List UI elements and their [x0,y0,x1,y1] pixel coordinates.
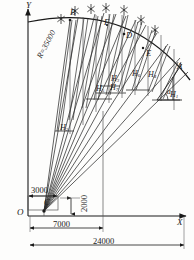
height-sub-h2: 2 [66,127,68,132]
origin-label: O [17,208,24,217]
point-d-label: D [126,31,132,40]
point-c-label: C [44,198,50,207]
height-label-h6: H6 [132,70,140,79]
height-sub-h6: 6 [138,73,140,78]
height-sub-h1: 1 [176,94,178,99]
ray-fan [44,13,188,211]
height-sub-h3: 3 [117,78,119,83]
height-label-h2: H2 [60,124,68,133]
height-label-h5: H5 [96,85,104,94]
diagram-canvas: Y X O C B F D E A a R=35000 H1 H4 H5 H6 … [0,0,194,260]
axis-x-label: X [177,218,183,227]
dimension-label-3000: 3000 [31,186,48,195]
axis-y-label: Y [26,1,31,10]
ray-tip-mark [120,5,127,15]
point-f-label: F [104,18,109,27]
point-a-label: A [177,62,182,71]
dimension-label-7000: 7000 [53,220,70,229]
height-label-h3: H3 [111,75,119,84]
point-e-label: E [146,49,151,58]
dimension-line-2000 [60,198,80,214]
dimension-label-24000: 24000 [93,237,114,246]
ray-tip-mark [57,14,64,24]
height-sub-h4: 4 [154,74,156,79]
height-label-h7: H7 [110,84,118,93]
height-sub-h5: 5 [102,88,104,93]
height-label-h4: H4 [148,71,156,80]
height-label-h1: H1 [170,91,178,100]
height-sub-h7: 7 [116,87,118,92]
ray-tip-mark [137,15,144,25]
ray-tip-mark [87,4,94,14]
dimension-label-2000: 2000 [80,195,89,212]
ray-tip-mark [102,3,109,13]
ray-tip-mark [151,25,158,35]
point-b-label: B [70,8,76,17]
diagram-vector-layer [0,0,194,260]
c-box [28,196,58,216]
